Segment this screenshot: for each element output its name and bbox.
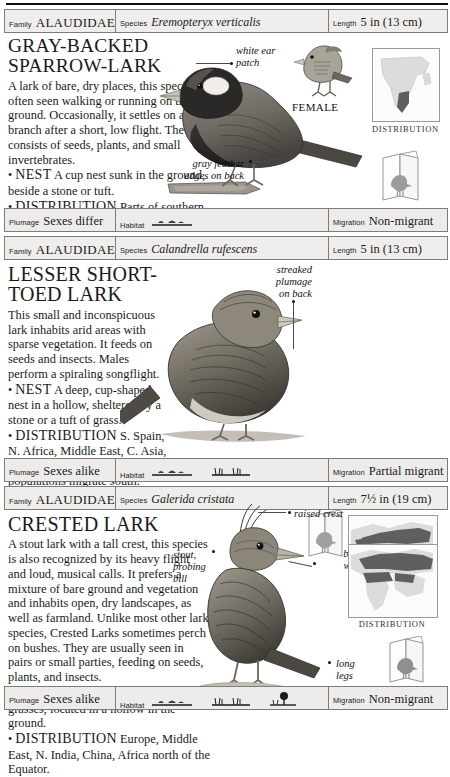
- length-label: Length: [333, 19, 357, 28]
- leader-line: [293, 303, 294, 349]
- callout-line-2: edges on back: [170, 170, 244, 182]
- leader-dot: [313, 562, 316, 565]
- species-entry-gray-backed-sparrow-lark: Family ALAUDIDAE Species Eremopteryx ver…: [0, 0, 450, 236]
- leader-line: [252, 161, 270, 162]
- distribution-label: DISTRIBUTION: [15, 731, 117, 746]
- species-footer-bar: Plumage Sexes alike Habitat: [4, 686, 448, 710]
- bullet-icon: •: [8, 383, 12, 397]
- migration-value: Non-migrant: [369, 692, 434, 707]
- plumage-cell: Plumage Sexes differ: [5, 209, 115, 231]
- habitat-cell: Habitat: [115, 687, 328, 709]
- length-value: 5 in (13 cm): [361, 15, 422, 30]
- distribution-map: [348, 544, 438, 618]
- plumage-label: Plumage: [9, 468, 39, 477]
- migration-label: Migration: [333, 218, 365, 227]
- family-value: ALAUDIDAE: [36, 242, 115, 258]
- distribution-line: • DISTRIBUTION Europe, Middle East, N. I…: [8, 731, 210, 777]
- habitat-icon-group: [150, 464, 252, 480]
- species-footer-bar: Plumage Sexes alike Habitat: [4, 458, 448, 482]
- bird-illustration: [120, 258, 360, 462]
- length-label: Length: [333, 496, 357, 505]
- plumage-label: Plumage: [9, 218, 39, 227]
- callout-line-2: plumage: [250, 276, 312, 288]
- plumage-cell: Plumage Sexes alike: [5, 687, 115, 709]
- distribution-label: DISTRIBUTION: [15, 428, 117, 443]
- page-title: CRESTED LARK: [8, 514, 218, 534]
- species-cell: Species Calandrella rufescens: [115, 237, 328, 259]
- habitat-label: Habitat: [120, 471, 144, 480]
- species-label: Species: [120, 246, 147, 255]
- leader-dot: [328, 661, 331, 664]
- grassland-icon: [210, 464, 252, 478]
- callout-line-1: gray feather: [170, 158, 244, 170]
- africa-map: [373, 49, 437, 119]
- family-value: ALAUDIDAE: [36, 15, 115, 31]
- length-cell: Length 5 in (13 cm): [328, 10, 447, 32]
- callout-line-1: long: [336, 658, 355, 670]
- nest-label: NEST: [15, 167, 51, 182]
- bird-illustration-female: [290, 38, 354, 104]
- callout-gray-feather-edges: gray feather edges on back: [170, 158, 244, 182]
- callout-line-2: patch: [236, 57, 275, 69]
- length-cell: Length 7½ in (19 cm): [328, 487, 447, 509]
- nest-label: NEST: [15, 382, 51, 397]
- species-label: Species: [120, 19, 147, 28]
- migration-label: Migration: [333, 696, 365, 705]
- bird-illustration: [200, 500, 330, 694]
- callout-white-ear-patch: white ear patch: [236, 45, 275, 69]
- distribution-map: [372, 48, 440, 122]
- callout-streaked-plumage: streaked plumage on back: [250, 264, 312, 300]
- grassland-icon: [210, 694, 252, 708]
- female-sparrow-lark-drawing: [290, 38, 354, 100]
- species-footer-bar: Plumage Sexes differ Habitat Migration N…: [4, 208, 448, 232]
- habitat-icon-group: [150, 214, 194, 230]
- book-with-bird-icon: [378, 150, 424, 202]
- bullet-icon: •: [8, 429, 12, 443]
- callout-raised-crest: raised crest: [294, 508, 343, 520]
- species-header-bar: Family ALAUDIDAE Species Calandrella ruf…: [4, 236, 448, 260]
- habitat-cell: Habitat: [115, 459, 328, 481]
- callout-line-2: probing: [173, 561, 206, 573]
- species-value: Calandrella rufescens: [151, 242, 257, 257]
- species-entry-crested-lark: Family ALAUDIDAE Species Galerida crista…: [0, 486, 450, 714]
- family-value: ALAUDIDAE: [36, 492, 115, 508]
- migration-value: Non-migrant: [369, 214, 434, 229]
- habitat-cell: Habitat: [115, 209, 328, 231]
- family-cell: Family ALAUDIDAE: [5, 487, 115, 509]
- distribution-map-caption: DISTRIBUTION: [372, 124, 438, 134]
- bullet-icon: •: [8, 168, 12, 182]
- species-label: Species: [120, 496, 147, 505]
- woodland-tree-icon: [268, 692, 300, 708]
- migration-label: Migration: [333, 468, 365, 477]
- migration-value: Partial migrant: [369, 464, 444, 479]
- plumage-value: Sexes differ: [43, 214, 103, 229]
- callout-line-1: streaked: [250, 264, 312, 276]
- length-value: 5 in (13 cm): [361, 242, 422, 257]
- family-cell: Family ALAUDIDAE: [5, 237, 115, 259]
- migration-cell: Migration Non-migrant: [328, 687, 447, 709]
- leader-line: [196, 63, 230, 64]
- callout-line-1: stout,: [173, 549, 206, 561]
- habitat-icon-group: [150, 692, 300, 709]
- world-map: [349, 545, 435, 615]
- leader-line: [258, 512, 286, 513]
- callout-long-legs: long legs: [336, 658, 355, 682]
- perch-book-icon: [386, 636, 428, 688]
- callout-line-1: raised crest: [294, 508, 343, 520]
- plumage-label: Plumage: [9, 696, 39, 705]
- plumage-value: Sexes alike: [43, 464, 100, 479]
- callout-line-3: on back: [250, 288, 312, 300]
- book-with-bird-icon: [386, 636, 428, 684]
- bare-ground-icon: [150, 214, 194, 228]
- lesser-short-toed-lark-drawing: [120, 258, 360, 458]
- leader-dot: [288, 511, 291, 514]
- callout-stout-probing-bill: stout, probing bill: [173, 549, 206, 585]
- family-label: Family: [9, 20, 32, 29]
- callout-line-1: white ear: [236, 45, 275, 57]
- species-cell: Species Eremopteryx verticalis: [115, 10, 328, 32]
- family-label: Family: [9, 247, 32, 256]
- habitat-label: Habitat: [120, 221, 144, 230]
- species-title-line1: CRESTED LARK: [8, 514, 218, 534]
- bullet-icon: •: [8, 732, 12, 746]
